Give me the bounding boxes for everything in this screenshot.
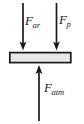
force-subscript-f-p: p [66,19,70,29]
plate [10,53,71,63]
force-arrow-f-atm [36,65,43,121]
force-subscript-f-atm: atm [51,87,64,97]
force-label-f-p: Fp [59,13,71,26]
free-body-diagram: Far Fp Fatm [0,0,84,124]
force-label-f-atm: Fatm [44,81,65,94]
diagram-canvas [0,0,84,124]
force-subscript-f-ar: ar [32,20,40,30]
force-label-f-ar: Far [25,14,41,27]
